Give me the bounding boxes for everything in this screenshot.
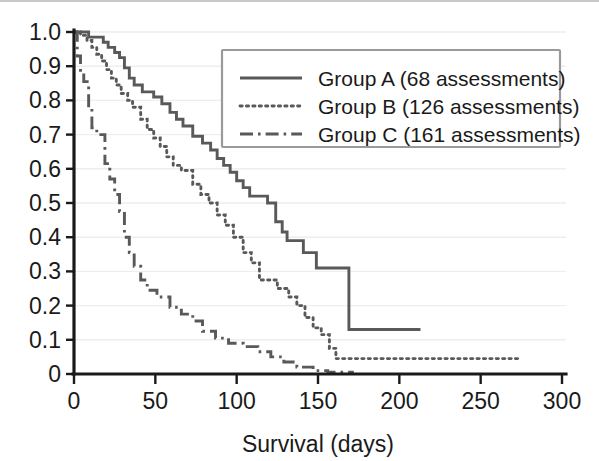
y-tick-label: 0.6 [29, 156, 61, 182]
x-tick-label: 150 [299, 388, 337, 414]
y-tick-label: 0.5 [29, 190, 61, 216]
y-tick-label: 0.3 [29, 258, 61, 284]
x-tick-label: 50 [143, 388, 169, 414]
y-tick-label: 1.0 [29, 19, 61, 45]
y-tick-label: 0.2 [29, 293, 61, 319]
y-tick-label: 0.4 [29, 224, 61, 250]
legend-label-1: Group A (68 assessments) [318, 67, 565, 90]
x-tick-label: 250 [461, 388, 499, 414]
x-axis-title: Survival (days) [242, 431, 394, 457]
y-tick-labels-group: 00.10.20.30.40.50.60.70.80.91.0 [29, 19, 61, 387]
chart-legend: Group A (68 assessments)Group B (126 ass… [222, 50, 581, 147]
survival-chart-figure: 00.10.20.30.40.50.60.70.80.91.0 05010015… [0, 0, 599, 461]
y-tick-label: 0.9 [29, 53, 61, 79]
legend-label-2: Group B (126 assessments) [318, 95, 579, 118]
x-tick-label: 100 [217, 388, 255, 414]
y-tick-label: 0 [48, 361, 61, 387]
y-tick-label: 0.8 [29, 87, 61, 113]
x-tick-label: 200 [380, 388, 418, 414]
x-tick-labels-group: 050100150200250300 [68, 388, 582, 414]
x-tick-label: 300 [543, 388, 581, 414]
x-tick-label: 0 [68, 388, 81, 414]
y-tick-label: 0.1 [29, 327, 61, 353]
y-tick-label: 0.7 [29, 122, 61, 148]
survival-plot-svg: 00.10.20.30.40.50.60.70.80.91.0 05010015… [0, 0, 599, 461]
legend-label-3: Group C (161 assessments) [318, 123, 581, 146]
